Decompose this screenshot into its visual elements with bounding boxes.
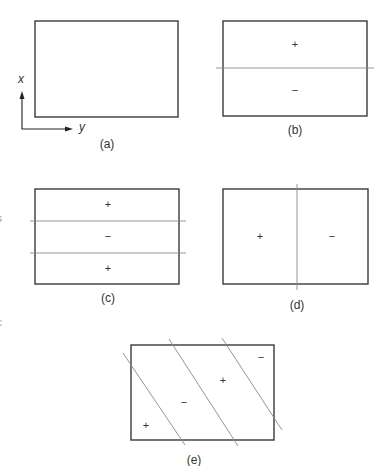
- y-axis-label: y: [78, 120, 86, 134]
- panel-e-caption: (e): [187, 453, 202, 466]
- panel-b: + − (b): [216, 21, 374, 137]
- sign-positive: +: [220, 374, 226, 386]
- panel-d-caption: (d): [290, 298, 305, 312]
- panel-c-caption: (c): [101, 291, 115, 305]
- y-arrow-icon: [65, 127, 73, 132]
- nodal-line-2: [169, 339, 238, 446]
- sign-negative: −: [329, 230, 335, 242]
- nodal-pattern-figure: s c x y (a) + − (b) + − + (c) + −: [0, 0, 381, 466]
- panel-a-caption: (a): [100, 137, 115, 151]
- panel-d: + − (d): [223, 184, 368, 312]
- edge-fragment-2: c: [0, 317, 2, 328]
- panel-a: x y (a): [17, 21, 178, 151]
- sign-positive: +: [105, 198, 111, 210]
- edge-fragment-1: s: [0, 213, 2, 224]
- sign-negative: −: [181, 396, 187, 408]
- sign-positive: +: [105, 262, 111, 274]
- sign-negative: −: [105, 230, 111, 242]
- panel-d-box: [223, 189, 368, 284]
- panel-b-caption: (b): [288, 123, 303, 137]
- axis-lines: [22, 97, 66, 129]
- sign-negative: −: [258, 351, 264, 363]
- panel-c: + − + (c): [30, 189, 186, 305]
- sign-positive: +: [143, 419, 149, 431]
- panel-e: + − + − (e): [123, 338, 282, 466]
- x-axis-label: x: [17, 72, 25, 86]
- sign-positive: +: [257, 230, 263, 242]
- nodal-line-1: [123, 353, 185, 445]
- nodal-line-3: [222, 338, 282, 430]
- axis-indicator: x y: [17, 72, 86, 134]
- x-arrow-icon: [20, 91, 25, 99]
- sign-negative: −: [292, 84, 298, 96]
- panel-e-box: [131, 345, 274, 440]
- panel-b-box: [223, 21, 367, 116]
- sign-positive: +: [292, 38, 298, 50]
- panel-a-box: [35, 21, 178, 117]
